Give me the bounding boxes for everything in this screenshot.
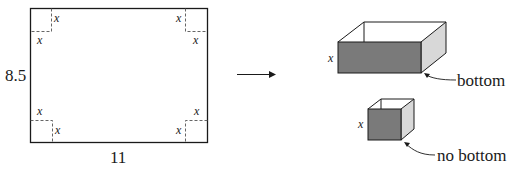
corner-cut-top-right: x x [175,9,208,48]
box-side-face [401,99,414,140]
corner-label: x [53,11,60,25]
corner-label: x [54,123,61,137]
corner-label: x [192,33,199,47]
corner-label: x [36,104,43,118]
arrow-icon [237,71,276,78]
open-box-with-bottom: x bottom [327,22,505,90]
box-side-face [421,22,446,73]
width-dimension-label: 11 [110,148,126,167]
corner-label: x [175,123,182,137]
box-front-face [338,42,421,73]
height-dimension-label: 8.5 [5,66,26,85]
tube-no-bottom: x no bottom [357,99,506,165]
bottom-callout-label: bottom [457,71,505,90]
corner-cut-bottom-left: x x [31,104,62,143]
corner-label: x [175,11,182,25]
corner-label: x [193,104,200,118]
no-bottom-callout-label: no bottom [437,146,506,165]
box-height-label: x [327,51,334,65]
diagram-canvas: x x x x x x x x 8.5 11 x [0,0,509,171]
box-front-face [368,109,401,140]
flat-sheet: x x x x x x x x 8.5 11 [5,9,208,168]
box-height-label: x [357,117,364,131]
corner-cut-bottom-right: x x [175,104,208,143]
corner-cut-top-left: x x [31,9,61,48]
corner-label: x [36,33,43,47]
